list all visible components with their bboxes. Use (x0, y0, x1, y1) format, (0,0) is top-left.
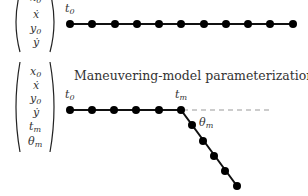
vec-thetam: θm (28, 135, 43, 149)
vec-x0: x0 (30, 65, 41, 79)
model-title: Maneuvering-model parameterization (74, 68, 308, 83)
top-state-vector: x0 ẋ y0 ẏ (16, 0, 54, 52)
vec-ydot: ẏ (32, 36, 40, 49)
trajectory-point (155, 20, 163, 28)
vec-xdot: ẋ (33, 8, 40, 21)
trajectory-point (177, 106, 185, 114)
trajectory-point (133, 20, 141, 28)
trajectory-point (111, 20, 119, 28)
trajectory-diagram: x0 ẋ y0 ẏ t0 x0 ẋ y0 ẏ tm θm Maneuvering… (0, 0, 308, 196)
vec-tm: tm (29, 120, 41, 134)
right-paren (50, 62, 54, 152)
vec-x0: x0 (30, 0, 41, 5)
maneuver-point (233, 182, 241, 190)
trajectory-point (110, 106, 118, 114)
trajectory-point (88, 20, 96, 28)
trajectory-point (289, 20, 297, 28)
trajectory-point (132, 106, 140, 114)
right-paren (50, 0, 54, 52)
trajectory-point (66, 20, 74, 28)
vec-ydot: ẏ (32, 106, 40, 119)
top-t0-label: t0 (65, 2, 75, 16)
left-paren (16, 62, 20, 152)
trajectory-point (200, 20, 208, 28)
left-paren (16, 0, 20, 52)
trajectory-point (266, 20, 274, 28)
constant-velocity-trajectory (66, 20, 297, 28)
vec-xdot: ẋ (33, 79, 40, 92)
trajectory-point (88, 106, 96, 114)
bottom-t0-label: t0 (65, 88, 75, 102)
trajectory-point (222, 20, 230, 28)
tm-label: tm (175, 88, 187, 102)
trajectory-point (244, 20, 252, 28)
maneuver-point (221, 167, 229, 175)
maneuvering-trajectory (66, 106, 241, 190)
trajectory-point (155, 106, 163, 114)
trajectory-point (66, 106, 74, 114)
vec-y0: y0 (29, 22, 41, 36)
vec-y0: y0 (29, 92, 41, 106)
maneuver-point (210, 152, 218, 160)
maneuver-point (199, 137, 207, 145)
theta-m-label: θm (199, 116, 214, 130)
maneuver-point (188, 121, 196, 129)
trajectory-point (177, 20, 185, 28)
bottom-state-vector: x0 ẋ y0 ẏ tm θm (16, 62, 54, 152)
